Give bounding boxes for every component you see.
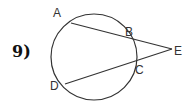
- point-label-E: E: [174, 45, 182, 57]
- secant-AE: [71, 23, 172, 49]
- secant-DE: [65, 49, 172, 84]
- point-label-C: C: [135, 64, 144, 76]
- point-label-A: A: [53, 7, 61, 19]
- point-label-B: B: [125, 26, 133, 38]
- problem-number: 9): [12, 44, 31, 60]
- point-label-D: D: [50, 80, 59, 92]
